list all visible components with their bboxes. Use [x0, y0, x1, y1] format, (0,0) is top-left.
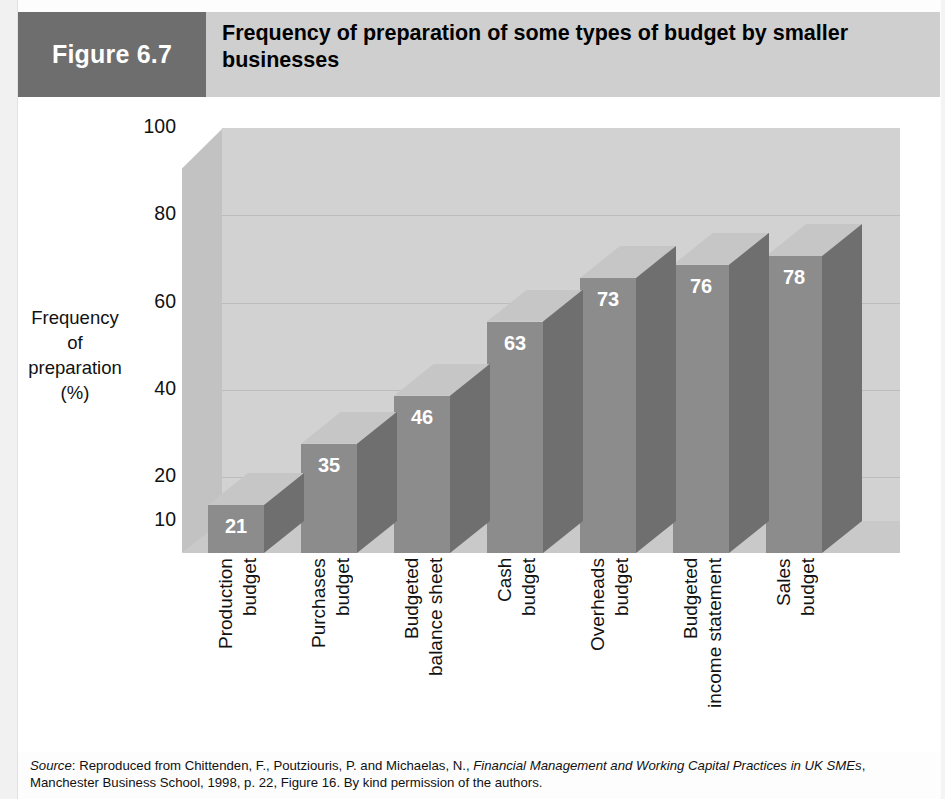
y-axis-tick-label: 100	[118, 115, 176, 138]
source-divider	[18, 748, 940, 749]
bar-front-face	[766, 256, 822, 553]
y-axis-tick-label: 10	[118, 508, 176, 531]
x-axis-category-line: budget	[517, 558, 541, 748]
bar-column[interactable]: 78	[766, 128, 862, 553]
bar-side-face	[636, 246, 676, 553]
figure-number-tag: Figure 6.7	[18, 12, 206, 97]
y-axis-title-line: of	[10, 330, 140, 355]
x-axis-category-line: Overheads	[586, 558, 610, 748]
x-axis-category-line: Cash	[493, 558, 517, 748]
bar-column[interactable]: 73	[580, 128, 676, 553]
bar-column[interactable]: 35	[301, 128, 397, 553]
bar-value-label: 21	[208, 515, 264, 538]
bar-value-label: 46	[394, 406, 450, 429]
plot-area: 21354663737678	[182, 128, 900, 553]
x-axis-category-line: budget	[331, 558, 355, 748]
y-axis-tick-label: 60	[118, 290, 176, 313]
bar-side-face	[729, 233, 769, 553]
bar-column[interactable]: 76	[673, 128, 769, 553]
source-text-before: Reproduced from Chittenden, F., Poutziou…	[79, 758, 473, 773]
figure-page: Figure 6.7 Frequency of preparation of s…	[0, 0, 945, 799]
bar-value-label: 73	[580, 288, 636, 311]
bar-column[interactable]: 21	[208, 128, 304, 553]
x-axis-category-line: Production	[214, 558, 238, 748]
bar-side-face	[543, 290, 583, 553]
x-axis-category-line: balance sheet	[424, 558, 448, 748]
x-axis-category-line: Sales	[772, 558, 796, 748]
y-axis-tick-label: 40	[118, 377, 176, 400]
x-axis-category-line: Budgeted	[400, 558, 424, 748]
bar-value-label: 78	[766, 266, 822, 289]
x-axis-category-line: budget	[610, 558, 634, 748]
bar-side-face	[822, 224, 862, 553]
bar-value-label: 35	[301, 454, 357, 477]
x-axis-category-line: Purchases	[307, 558, 331, 748]
x-axis-category-label: Overheadsbudget	[586, 558, 634, 748]
bar-column[interactable]: 63	[487, 128, 583, 553]
x-axis-category-line: income statement	[703, 558, 727, 748]
bar-front-face	[487, 322, 543, 553]
figure-title: Frequency of preparation of some types o…	[222, 20, 922, 74]
source-publication: Financial Management and Working Capital…	[473, 758, 861, 773]
source-note: Source: Reproduced from Chittenden, F., …	[30, 757, 930, 791]
bar-front-face	[673, 265, 729, 553]
bar-side-face	[450, 364, 490, 553]
x-axis-category-label: Cashbudget	[493, 558, 541, 748]
figure-number-label: Figure 6.7	[52, 40, 172, 69]
bar-front-face	[580, 278, 636, 553]
x-axis-category-label: Productionbudget	[214, 558, 262, 748]
bar-value-label: 76	[673, 275, 729, 298]
x-axis-category-line: Budgeted	[679, 558, 703, 748]
x-axis-category-line: budget	[238, 558, 262, 748]
bar-column[interactable]: 46	[394, 128, 490, 553]
x-axis-category-line: budget	[796, 558, 820, 748]
page-right-margin	[941, 0, 945, 799]
y-axis-tick-label: 80	[118, 202, 176, 225]
bar-value-label: 63	[487, 332, 543, 355]
y-axis-tick-label: 20	[118, 464, 176, 487]
x-axis-category-label: Budgetedincome statement	[679, 558, 727, 748]
x-axis-category-label: Purchasesbudget	[307, 558, 355, 748]
x-axis-category-label: Budgetedbalance sheet	[400, 558, 448, 748]
source-label: Source	[30, 758, 72, 773]
x-axis-category-label: Salesbudget	[772, 558, 820, 748]
